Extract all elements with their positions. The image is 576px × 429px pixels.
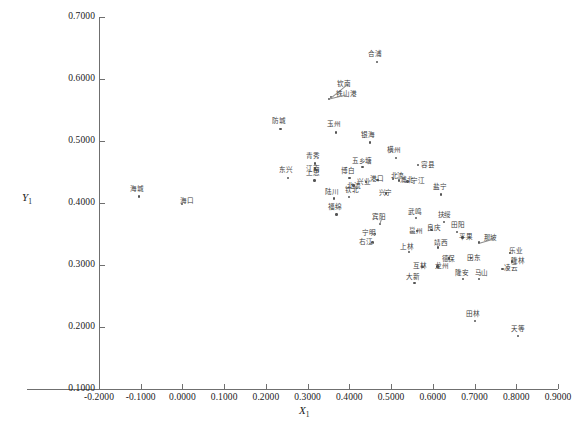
data-point-marker [335,131,338,134]
data-point-label: 扶绥 [438,212,452,219]
data-point-label: 陆川 [325,189,339,196]
data-point-marker [517,335,520,338]
data-point-label: 钦北 [345,187,359,194]
data-point-label: 防城 [272,118,286,125]
data-point-label: 港口 [370,176,384,183]
data-point-label: 靖西 [434,240,448,247]
data-point-marker [415,217,418,220]
data-point-label: 互林 [413,263,427,270]
data-point-label: 乐业 [509,248,523,255]
data-point-marker [279,128,282,131]
label-leader-line [369,243,373,244]
data-point-label: 凌云 [504,265,518,272]
data-point-marker [474,320,477,323]
data-point-marker [376,61,379,64]
data-point-label: 玉州 [327,121,341,128]
data-point-marker [462,278,465,281]
data-point-label: 武鸣 [408,209,422,216]
data-point-marker [348,196,351,199]
data-point-marker [395,157,398,160]
data-point-label: 上思 [306,170,320,177]
data-point-marker [369,141,372,144]
data-point-label: 兴宁 [379,190,393,197]
data-point-marker [348,177,351,180]
data-point-label: 福绵 [328,204,342,211]
data-point-marker [478,278,481,281]
data-point-marker [333,197,336,200]
x-axis-title: X1 [299,404,309,419]
data-point-label: 海口 [180,198,194,205]
x-axis-title-main: X [299,404,306,416]
data-point-label: 平果 [459,234,473,241]
data-point-label: 横州 [387,147,401,154]
data-point-label: 宾阳 [372,214,386,221]
data-point-label: 容县 [421,162,435,169]
data-point-marker [440,193,443,196]
y-axis-title: Y1 [22,191,32,206]
data-point-marker [138,195,141,198]
x-axis-title-sub: 1 [306,410,310,419]
data-point-label: 青秀 [306,153,320,160]
data-point-marker [361,166,364,169]
data-point-label: 海城 [130,186,144,193]
data-point-label: 大新 [406,274,420,281]
y-axis-title-sub: 1 [28,197,32,206]
data-point-label: 银海 [361,132,375,139]
data-point-label: 田阳 [451,222,465,229]
data-point-marker [313,179,316,182]
data-point-marker [408,251,411,254]
data-point-label: 东兴 [279,167,293,174]
data-point-marker [413,282,416,285]
data-point-label: 合浦 [368,51,382,58]
data-point-label: 良庆 [427,225,441,232]
data-point-label: 马山 [475,270,489,277]
data-point-label: 天等 [511,326,525,333]
data-point-label: 龙州 [435,263,449,270]
data-point-label: 博白 [341,168,355,175]
data-point-label: 田东 [467,255,481,262]
data-point-label: 田林 [466,311,480,318]
data-point-marker [443,221,446,224]
data-point-label: 上林 [400,244,414,251]
data-point-marker [417,164,420,167]
label-leader-line [372,234,375,235]
data-point-label: 邕州 [409,228,423,235]
data-point-label: 隆安 [455,270,469,277]
data-point-label: 盐宁 [433,184,447,191]
data-point-label: 宁江 [411,178,425,185]
data-point-marker [335,213,338,216]
data-point-marker [406,180,409,183]
data-point-marker [287,177,290,180]
data-point-label: 五乡塘 [352,158,372,165]
